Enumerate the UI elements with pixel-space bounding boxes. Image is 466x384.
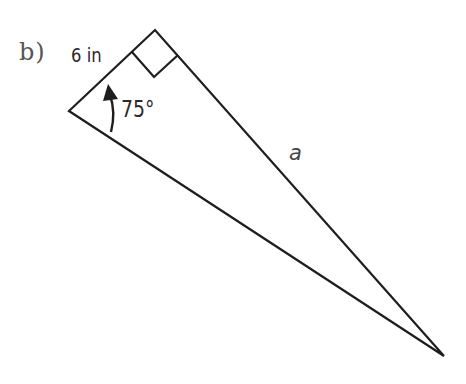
triangle-diagram [0,0,466,384]
right-triangle [69,30,444,356]
angle-label: 75° [121,98,154,121]
side-a-label: a [289,143,302,164]
triangle-figure: b) 6 in 75° a [0,0,466,384]
short-leg-label: 6 in [71,45,102,65]
angle-arc-icon [110,95,113,132]
right-angle-marker [132,52,178,77]
arrowhead-icon [103,84,118,101]
part-label: b) [19,40,46,64]
